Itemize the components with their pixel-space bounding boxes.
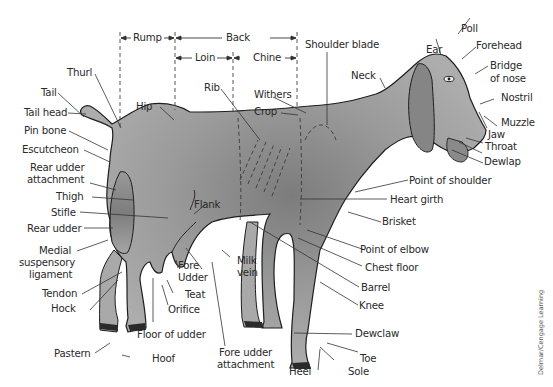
label-milk-vein-2: vein: [237, 267, 258, 279]
label-sole: Sole: [348, 366, 369, 378]
label-throat: Throat: [485, 141, 517, 153]
label-neck: Neck: [351, 70, 376, 82]
label-medial-suspensory-ligament-3: ligament: [29, 269, 72, 281]
label-brisket: Brisket: [382, 216, 416, 228]
label-fore-udder-attachment-2: attachment: [217, 359, 274, 371]
label-tail-head: Tail head: [24, 107, 67, 119]
label-jaw: Jaw: [488, 129, 505, 141]
label-crop: Crop: [254, 106, 277, 118]
label-ear: Ear: [426, 44, 442, 56]
label-heel: Heel: [289, 366, 311, 378]
label-rib: Rib: [204, 82, 220, 94]
label-hock: Hock: [51, 303, 76, 315]
label-dewclaw: Dewclaw: [355, 328, 399, 340]
label-barrel: Barrel: [361, 282, 390, 294]
label-tendon: Tendon: [42, 288, 77, 300]
label-thurl: Thurl: [67, 67, 92, 79]
label-fore-udder-1: Fore: [178, 260, 199, 272]
label-chest-floor: Chest floor: [365, 262, 418, 274]
label-rear-udder: Rear udder: [27, 223, 81, 235]
label-dewlap: Dewlap: [484, 156, 521, 168]
label-milk-vein-1: Milk: [237, 255, 257, 267]
label-toe: Toe: [360, 353, 376, 365]
label-thigh: Thigh: [56, 191, 83, 203]
label-fore-udder-2: Udder: [178, 272, 208, 284]
label-tail: Tail: [41, 87, 57, 99]
label-orifice: Orifice: [168, 304, 200, 316]
label-rear-udder-attachment-2: attachment: [27, 174, 84, 186]
label-medial-suspensory-ligament-1: Medial: [39, 245, 71, 257]
label-withers: Withers: [254, 89, 292, 101]
label-muzzle: Muzzle: [501, 117, 535, 129]
label-rump: Rump: [133, 32, 162, 44]
hoof-front-far: [244, 321, 264, 328]
label-shoulder-blade: Shoulder blade: [305, 39, 379, 51]
label-fore-udder-attachment-1: Fore udder: [219, 347, 272, 359]
rear-far-leg: [100, 250, 122, 332]
label-chine: Chine: [253, 52, 281, 64]
label-flank: Flank: [194, 199, 220, 211]
image-credit: Delmar/Cengage Learning: [537, 290, 545, 375]
label-point-of-shoulder: Point of shoulder: [409, 175, 491, 187]
label-poll: Poll: [461, 23, 478, 35]
label-hoof: Hoof: [152, 353, 175, 365]
label-floor-of-udder: Floor of udder: [137, 329, 206, 341]
label-heart-girth: Heart girth: [390, 194, 443, 206]
label-stifle: Stifle: [51, 207, 76, 219]
label-bridge-of-nose-2: of nose: [490, 73, 526, 85]
label-back: Back: [226, 32, 250, 44]
label-forehead: Forehead: [476, 40, 522, 52]
label-loin: Loin: [195, 52, 215, 64]
label-rear-udder-attachment-1: Rear udder: [30, 162, 84, 174]
label-point-of-elbow: Point of elbow: [360, 244, 429, 256]
label-teat: Teat: [185, 289, 205, 301]
label-pastern: Pastern: [54, 348, 91, 360]
label-hip: Hip: [136, 101, 152, 113]
label-pin-bone: Pin bone: [24, 125, 66, 137]
label-nostril: Nostril: [501, 92, 533, 104]
label-bridge-of-nose-1: Bridge: [490, 60, 522, 72]
label-escutcheon: Escutcheon: [22, 144, 79, 156]
ear-shape: [409, 64, 435, 152]
label-knee: Knee: [359, 300, 384, 312]
label-medial-suspensory-ligament-2: suspensory: [19, 257, 75, 269]
